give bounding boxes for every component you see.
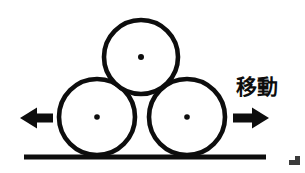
right-arrow-head — [252, 108, 269, 129]
left-arrow — [20, 108, 53, 129]
right-arrow-shaft — [233, 114, 254, 123]
move-label: 移動 — [236, 76, 278, 98]
right-circle-center-dot — [184, 114, 190, 120]
left-arrow-shaft — [35, 114, 53, 123]
right-arrow — [233, 108, 269, 129]
left-circle-center-dot — [94, 114, 100, 120]
corner-scan-mark — [289, 156, 300, 165]
figure-canvas: 移動 — [0, 0, 305, 173]
left-arrow-head — [20, 108, 37, 129]
top-circle-center-dot — [138, 54, 144, 60]
